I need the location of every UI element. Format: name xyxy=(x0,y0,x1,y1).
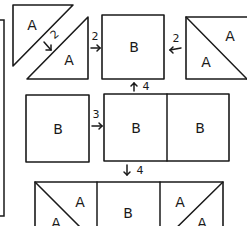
step-number-top-left: 2 xyxy=(92,30,99,43)
bottom-row: A A B A A xyxy=(35,182,223,226)
step-number-up: 4 xyxy=(143,80,150,93)
top-middle-square-b: B xyxy=(102,15,164,79)
hst-lower-a-label: A xyxy=(201,54,211,70)
step-number-down: 4 xyxy=(137,164,144,177)
middle-square-b-label: B xyxy=(53,121,63,137)
bottom-left-lower-a-label: A xyxy=(51,215,61,226)
left-edge-partial-block xyxy=(0,20,4,216)
bottom-left-upper-a-label: A xyxy=(75,194,85,210)
top-left-triangle-pair: A A 2 xyxy=(13,5,88,79)
step-number-middle: 3 xyxy=(93,108,100,121)
triangle-lower-a-label: A xyxy=(64,52,74,68)
bottom-right-upper-a-label: A xyxy=(175,194,185,210)
b-pair-left-label: B xyxy=(131,120,141,136)
arrow-down-icon xyxy=(124,165,130,175)
middle-right-b-pair: B B xyxy=(104,94,229,161)
b-pair-right-label: B xyxy=(195,120,205,136)
step-number-diagonal: 2 xyxy=(48,27,62,41)
middle-left-square-b: B xyxy=(26,95,89,162)
top-right-hst-square: A A xyxy=(186,17,247,79)
bottom-middle-b-label: B xyxy=(123,205,133,221)
arrow-left-icon xyxy=(170,47,181,53)
arrow-right-icon xyxy=(92,123,102,129)
bottom-right-lower-a-label: A xyxy=(197,215,207,226)
arrow-right-icon xyxy=(91,45,100,51)
arrow-down-right-icon xyxy=(44,42,51,50)
square-b-label: B xyxy=(129,39,139,55)
hst-upper-a-label: A xyxy=(225,28,235,44)
quilt-assembly-diagram: A A 2 2 B 2 A A 4 B xyxy=(0,0,247,226)
triangle-upper-a-label: A xyxy=(27,17,37,33)
step-number-top-right: 2 xyxy=(173,32,180,45)
arrow-up-icon xyxy=(131,83,137,91)
